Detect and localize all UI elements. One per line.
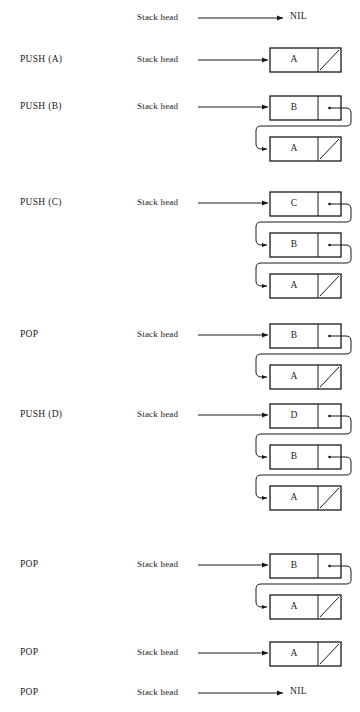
- node-row-pop-1-B-value: B: [274, 330, 314, 340]
- node-row-push-d-D-pointer-dot: [328, 415, 331, 418]
- node-row-push-c-A-value: A: [274, 280, 314, 290]
- operation-label-row-push-c: PUSH (C): [20, 197, 62, 207]
- node-row-push-d-B-value: B: [274, 451, 314, 461]
- operation-label-row-pop-4: POP: [20, 687, 38, 697]
- node-row-pop-2-A-value: A: [274, 601, 314, 611]
- node-row-pop-1-B-pointer-dot: [328, 335, 331, 338]
- node-row-pop-3-A-value: A: [274, 648, 314, 658]
- stack-head-label-row-push-b: Stack head: [137, 101, 178, 111]
- node-row-push-d-B-pointer-dot: [328, 456, 331, 459]
- stack-linked-list-diagram: Stack headNILPUSH (A)Stack headAPUSH (B)…: [0, 0, 360, 712]
- node-row-push-c-C-pointer-dot: [328, 203, 331, 206]
- node-row-push-c-A-nil-slash: [320, 276, 339, 296]
- stack-head-label-row-pop-2: Stack head: [137, 559, 178, 569]
- node-row-push-b-B-pointer-dot: [328, 107, 331, 110]
- node-row-pop-1-A-value: A: [274, 371, 314, 381]
- node-row-push-c-B-value: B: [274, 239, 314, 249]
- stack-head-label-row-initial: Stack head: [137, 12, 178, 22]
- node-row-push-c-C-value: C: [274, 198, 314, 208]
- stack-head-label-row-pop-1: Stack head: [137, 329, 178, 339]
- stack-head-label-row-pop-4: Stack head: [137, 687, 178, 697]
- node-row-push-d-A-nil-slash: [320, 488, 339, 508]
- operation-label-row-pop-1: POP: [20, 329, 38, 339]
- nil-label-row-pop-4: NIL: [290, 686, 307, 696]
- node-row-pop-1-A-nil-slash: [320, 367, 339, 387]
- node-row-push-d-D-value: D: [274, 410, 314, 420]
- stack-head-label-row-push-c: Stack head: [137, 197, 178, 207]
- node-row-push-b-A-value: A: [274, 143, 314, 153]
- node-row-push-a-A-value: A: [274, 54, 314, 64]
- node-row-pop-2-A-nil-slash: [320, 597, 339, 617]
- node-row-pop-3-A-nil-slash: [320, 644, 339, 664]
- stack-head-label-row-pop-3: Stack head: [137, 647, 178, 657]
- operation-label-row-push-b: PUSH (B): [20, 101, 62, 111]
- node-row-push-d-A-value: A: [274, 492, 314, 502]
- operation-label-row-pop-3: POP: [20, 647, 38, 657]
- node-row-push-b-B-value: B: [274, 102, 314, 112]
- operation-label-row-push-a: PUSH (A): [20, 54, 62, 64]
- nil-label-row-initial: NIL: [290, 11, 307, 21]
- node-row-push-a-A-nil-slash: [320, 50, 339, 70]
- node-row-pop-2-B-pointer-dot: [328, 565, 331, 568]
- operation-label-row-pop-2: POP: [20, 559, 38, 569]
- stack-head-label-row-push-d: Stack head: [137, 409, 178, 419]
- node-row-pop-2-B-value: B: [274, 560, 314, 570]
- node-row-push-b-A-nil-slash: [320, 139, 339, 159]
- operation-label-row-push-d: PUSH (D): [20, 409, 62, 419]
- node-row-push-c-B-pointer-dot: [328, 244, 331, 247]
- stack-head-label-row-push-a: Stack head: [137, 54, 178, 64]
